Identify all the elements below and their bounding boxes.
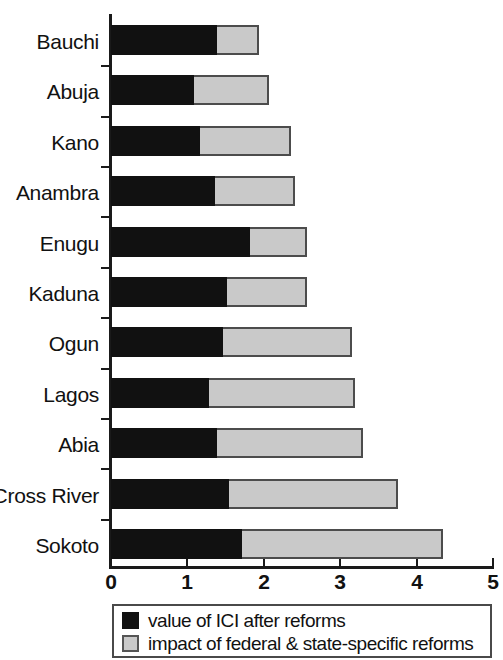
y-axis-tick-label: Kaduna <box>0 283 99 304</box>
x-axis-tick-label: 4 <box>402 571 432 592</box>
bar-segment-impact-of-reforms <box>229 479 398 509</box>
bar-stack <box>111 378 355 408</box>
bar-segment-impact-of-reforms <box>209 378 356 408</box>
bar-segment-impact-of-reforms <box>223 327 352 357</box>
y-axis-tick-label: Ogun <box>0 333 99 354</box>
bar-stack <box>111 327 352 357</box>
x-axis-tick-label: 5 <box>478 571 503 592</box>
x-axis-tick <box>339 558 341 569</box>
bar-stack <box>111 227 307 257</box>
x-axis-tick-label: 2 <box>249 571 279 592</box>
bar-segment-value-of-ici <box>111 529 242 559</box>
bar-stack <box>111 126 291 156</box>
y-axis-tick <box>101 418 110 420</box>
bar-stack <box>111 25 259 55</box>
bar-segment-impact-of-reforms <box>227 277 306 307</box>
y-axis-tick <box>101 65 110 67</box>
y-axis-tick <box>101 166 110 168</box>
bar-stack <box>111 176 295 206</box>
bar-segment-impact-of-reforms <box>217 428 363 458</box>
bar-segment-value-of-ici <box>111 25 217 55</box>
x-axis-line <box>109 566 493 569</box>
x-axis-tick <box>110 558 112 569</box>
legend-label-value-of-ici: value of ICI after reforms <box>148 611 345 630</box>
bar-segment-value-of-ici <box>111 378 209 408</box>
y-axis-tick <box>101 216 110 218</box>
y-axis-tick-label: Anambra <box>0 182 99 203</box>
x-axis-tick <box>263 558 265 569</box>
y-axis-tick-label: Abuja <box>0 81 99 102</box>
y-axis-tick <box>101 368 110 370</box>
legend-swatch-gray-icon <box>122 635 139 652</box>
bar-segment-impact-of-reforms <box>194 75 269 105</box>
bar-segment-impact-of-reforms <box>242 529 444 559</box>
x-axis-tick <box>416 558 418 569</box>
chart-legend: value of ICI after reforms impact of fed… <box>112 604 492 658</box>
y-axis-tick <box>101 267 110 269</box>
y-axis-tick-label: Enugu <box>0 233 99 254</box>
bar-segment-impact-of-reforms <box>215 176 295 206</box>
y-axis-tick-label: Kano <box>0 132 99 153</box>
y-axis-tick-label: Bauchi <box>0 31 99 52</box>
y-axis-tick-label: Cross River <box>0 485 99 506</box>
y-axis-tick-label: Lagos <box>0 384 99 405</box>
legend-item-impact-of-reforms: impact of federal & state-specific refor… <box>122 631 473 655</box>
bar-stack <box>111 479 398 509</box>
bar-segment-value-of-ici <box>111 75 194 105</box>
y-axis-tick-label: Sokoto <box>0 535 99 556</box>
bar-stack <box>111 277 307 307</box>
bar-stack <box>111 428 363 458</box>
bar-segment-impact-of-reforms <box>200 126 291 156</box>
y-axis-tick <box>101 519 110 521</box>
x-axis-tick-label: 3 <box>325 571 355 592</box>
bar-segment-value-of-ici <box>111 327 223 357</box>
y-axis-tick <box>101 317 110 319</box>
x-axis-tick-label: 1 <box>172 571 202 592</box>
bar-segment-value-of-ici <box>111 227 250 257</box>
bar-segment-impact-of-reforms <box>250 227 307 257</box>
y-axis-tick <box>101 116 110 118</box>
x-axis-tick <box>186 558 188 569</box>
legend-item-value-of-ici: value of ICI after reforms <box>122 608 345 632</box>
legend-label-impact-of-reforms: impact of federal & state-specific refor… <box>148 634 473 653</box>
bar-segment-value-of-ici <box>111 176 215 206</box>
legend-swatch-black-icon <box>122 612 139 629</box>
y-axis-tick <box>101 468 110 470</box>
bar-segment-value-of-ici <box>111 428 217 458</box>
x-axis-tick-label: 0 <box>96 571 126 592</box>
bar-segment-value-of-ici <box>111 479 229 509</box>
x-axis-tick <box>492 558 494 569</box>
bar-segment-impact-of-reforms <box>217 25 259 55</box>
bar-stack <box>111 75 269 105</box>
bar-segment-value-of-ici <box>111 126 200 156</box>
y-axis-tick-label: Abia <box>0 434 99 455</box>
plot-area: BauchiAbujaKanoAnambraEnuguKadunaOgunLag… <box>0 0 495 578</box>
bar-stack <box>111 529 443 559</box>
bar-segment-value-of-ici <box>111 277 227 307</box>
